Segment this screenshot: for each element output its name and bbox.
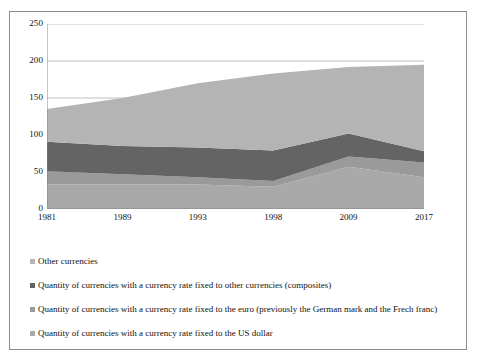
y-tick-label: 200 — [9, 56, 43, 65]
plot-area — [47, 24, 424, 209]
area-series-group — [47, 65, 424, 209]
y-tick-label: 50 — [9, 167, 43, 176]
x-tick-label: 1981 — [38, 212, 56, 222]
legend-item-label: Other currencies — [38, 256, 98, 267]
x-tick-label: 2009 — [340, 212, 358, 222]
y-tick-label: 100 — [9, 130, 43, 139]
legend-swatch-icon — [30, 259, 35, 264]
legend-item[interactable]: Quantity of currencies with a currency r… — [30, 321, 460, 345]
stacked-area-plot — [47, 24, 424, 209]
y-axis: 050100150200250 — [5, 24, 43, 209]
x-tick-label: 2017 — [415, 212, 433, 222]
y-tick-label: 150 — [9, 93, 43, 102]
legend-item[interactable]: Other currencies — [30, 249, 460, 273]
legend-item-label: Quantity of currencies with a currency r… — [38, 304, 437, 315]
x-axis: 198119891993199820092017 — [47, 212, 424, 226]
legend-swatch-icon — [30, 283, 35, 288]
chart-legend: Other currenciesQuantity of currencies w… — [30, 249, 460, 345]
chart-figure: 050100150200250 198119891993199820092017… — [0, 0, 477, 363]
legend-item[interactable]: Quantity of currencies with a currency r… — [30, 273, 460, 297]
x-tick-label: 1998 — [264, 212, 282, 222]
y-tick-label: 250 — [9, 19, 43, 28]
legend-item-label: Quantity of currencies with a currency r… — [38, 280, 331, 291]
x-tick-label: 1989 — [113, 212, 131, 222]
legend-item[interactable]: Quantity of currencies with a currency r… — [30, 297, 460, 321]
legend-swatch-icon — [30, 331, 35, 336]
legend-swatch-icon — [30, 307, 35, 312]
legend-item-label: Quantity of currencies with a currency r… — [38, 328, 273, 339]
x-tick-label: 1993 — [189, 212, 207, 222]
